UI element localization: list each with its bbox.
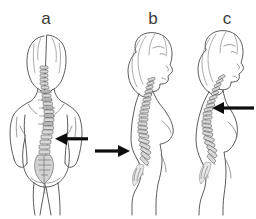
spine-posture-figure: a b c	[0, 0, 256, 219]
panel-label-c: c	[217, 10, 237, 27]
panel-label-b: b	[143, 10, 163, 27]
panel-label-a: a	[36, 10, 56, 27]
figure-canvas	[0, 0, 256, 219]
